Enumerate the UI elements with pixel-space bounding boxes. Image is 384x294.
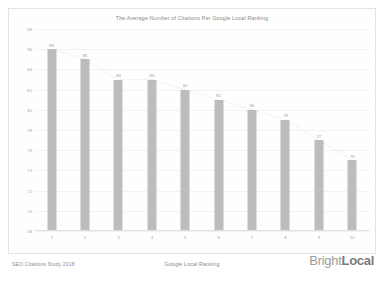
chart-footer: SEO Citations Study 2018 Google Local Ra… [8, 258, 376, 276]
bar-value-label: 82 [183, 83, 188, 88]
x-axis-tick-label: 9 [318, 235, 320, 240]
y-axis-tick-label: 88 [27, 27, 32, 32]
y-axis-tick-label: 70 [27, 208, 32, 213]
bar-slot[interactable]: 7510 [336, 29, 369, 231]
bar-value-label: 80 [250, 103, 255, 108]
x-axis-tick-label: 8 [284, 235, 286, 240]
x-axis-line [35, 230, 369, 231]
plot-area: 8886848280787674727068 86185283383482581… [35, 29, 369, 231]
bar-value-label: 77 [317, 134, 322, 139]
bar[interactable] [314, 140, 323, 231]
bar[interactable] [214, 100, 223, 231]
bar-value-label: 83 [116, 73, 121, 78]
bar-slot[interactable]: 833 [102, 29, 135, 231]
x-axis-tick-label: 5 [184, 235, 186, 240]
y-axis-tick-label: 82 [27, 87, 32, 92]
y-axis-tick-label: 76 [27, 148, 32, 153]
brand-bold-text: Local [342, 253, 374, 268]
chart-container: The Average Number of Citations Per Goog… [8, 8, 376, 254]
bar-value-label: 81 [216, 93, 221, 98]
x-axis-tick-label: 1 [50, 235, 52, 240]
bar[interactable] [248, 110, 257, 231]
x-axis-tick-label: 2 [84, 235, 86, 240]
bar-slot[interactable]: 861 [35, 29, 68, 231]
bar[interactable] [114, 80, 123, 232]
bar-slot[interactable]: 825 [169, 29, 202, 231]
bar-value-label: 75 [350, 154, 355, 159]
y-axis-tick-label: 80 [27, 107, 32, 112]
bar-slot[interactable]: 852 [68, 29, 101, 231]
y-axis-tick-label: 68 [27, 229, 32, 234]
brightlocal-logo: BrightLocal [309, 254, 374, 267]
x-axis-tick-label: 3 [117, 235, 119, 240]
bar-value-label: 85 [83, 53, 88, 58]
bar[interactable] [147, 80, 156, 232]
bar[interactable] [348, 160, 357, 231]
bar-slot[interactable]: 816 [202, 29, 235, 231]
y-axis-tick-label: 72 [27, 188, 32, 193]
bar[interactable] [47, 49, 56, 231]
bar-value-label: 86 [49, 43, 54, 48]
x-axis-tick-label: 4 [151, 235, 153, 240]
bar-value-label: 79 [283, 113, 288, 118]
bar-slot[interactable]: 798 [269, 29, 302, 231]
brand-light-text: Bright [309, 253, 341, 268]
y-axis-tick-label: 86 [27, 47, 32, 52]
y-axis-tick-label: 74 [27, 168, 32, 173]
y-axis-tick-label: 78 [27, 128, 32, 133]
bar-slot[interactable]: 807 [235, 29, 268, 231]
bar[interactable] [81, 59, 90, 231]
x-axis-tick-label: 6 [217, 235, 219, 240]
x-axis-tick-label: 7 [251, 235, 253, 240]
y-axis-tick-label: 84 [27, 67, 32, 72]
bar-slot[interactable]: 779 [302, 29, 335, 231]
gridline [35, 231, 369, 232]
x-axis-tick-label: 10 [350, 235, 355, 240]
bar-slot[interactable]: 834 [135, 29, 168, 231]
bar[interactable] [181, 90, 190, 231]
bar-value-label: 83 [150, 73, 155, 78]
bar[interactable] [281, 120, 290, 231]
chart-title: The Average Number of Citations Per Goog… [9, 15, 375, 21]
